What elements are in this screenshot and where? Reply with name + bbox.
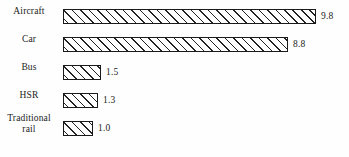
bar-car [63, 37, 288, 52]
category-label-hsr: HSR [0, 90, 58, 101]
category-label-car: Car [0, 34, 58, 45]
bar-row-aircraft: Aircraft 9.8 [0, 3, 349, 31]
category-label-aircraft: Aircraft [0, 6, 58, 17]
bar-bus [63, 65, 101, 80]
bar-row-bus: Bus 1.5 [0, 59, 349, 87]
category-label-bus: Bus [0, 62, 58, 73]
category-label-traditional-rail: Traditional rail [0, 113, 58, 134]
bar-row-car: Car 8.8 [0, 31, 349, 59]
value-label-car: 8.8 [293, 36, 305, 52]
bar-container-traditional-rail [63, 121, 93, 136]
bar-hsr [63, 93, 98, 108]
category-label-line: HSR [20, 90, 39, 100]
value-label-hsr: 1.3 [103, 92, 115, 108]
value-label-bus: 1.5 [106, 64, 118, 80]
bar-traditional-rail [63, 121, 93, 136]
bar-chart: Aircraft 9.8 Car 8.8 Bus 1.5 HSR [0, 0, 349, 157]
bar-container-car [63, 37, 288, 52]
value-label-aircraft: 9.8 [321, 8, 333, 24]
bar-aircraft [63, 9, 316, 24]
category-label-line: Aircraft [13, 6, 44, 16]
category-label-line: rail [0, 124, 58, 135]
bar-row-traditional-rail: Traditional rail 1.0 [0, 115, 349, 143]
value-label-traditional-rail: 1.0 [98, 120, 110, 136]
category-label-line: Car [22, 34, 36, 44]
bar-row-hsr: HSR 1.3 [0, 87, 349, 115]
bar-container-hsr [63, 93, 98, 108]
category-label-line: Traditional [0, 113, 58, 124]
bar-container-aircraft [63, 9, 316, 24]
category-label-line: Bus [21, 62, 36, 72]
bar-container-bus [63, 65, 101, 80]
